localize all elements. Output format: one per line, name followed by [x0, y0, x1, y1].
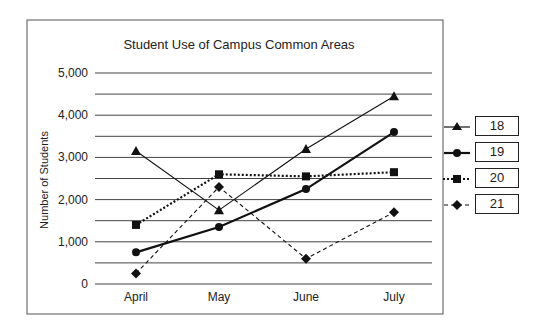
circle-marker [302, 185, 310, 193]
legend-item-18: 18 [442, 116, 542, 142]
triangle-marker-icon [442, 116, 472, 138]
y-tick-label: 5,000 [58, 66, 88, 80]
y-tick-label: 3,000 [58, 150, 88, 164]
legend-label: 18 [475, 116, 519, 136]
square-marker [390, 168, 398, 176]
y-axis-ticks: 01,0002,0003,0004,0005,000 [58, 66, 88, 291]
chart-frame [27, 20, 443, 314]
square-marker-icon [442, 168, 472, 190]
y-tick-label: 0 [81, 277, 88, 291]
x-tick-label: April [124, 290, 148, 304]
triangle-marker [301, 144, 311, 153]
square-marker [215, 170, 223, 178]
y-axis-label: Number of Students [38, 131, 50, 229]
legend-label: 20 [475, 168, 519, 188]
x-tick-label: July [383, 290, 404, 304]
series-line [136, 172, 394, 225]
triangle-marker [131, 146, 141, 155]
legend-item-19: 19 [442, 142, 542, 168]
circle-marker [390, 128, 398, 136]
legend-item-21: 21 [442, 194, 542, 220]
circle-marker [132, 248, 140, 256]
square-marker [302, 172, 310, 180]
diamond-marker [389, 207, 399, 217]
series-18 [131, 91, 399, 214]
series-line [136, 132, 394, 252]
y-tick-label: 1,000 [58, 235, 88, 249]
square-marker [132, 221, 140, 229]
y-tick-label: 2,000 [58, 193, 88, 207]
y-tick-label: 4,000 [58, 108, 88, 122]
series-21 [131, 182, 399, 279]
triangle-marker [389, 91, 399, 100]
legend: 18 19 20 21 [442, 116, 542, 220]
diamond-marker [131, 268, 141, 278]
series-lines [131, 91, 399, 278]
x-axis-ticks: AprilMayJuneJuly [124, 290, 405, 304]
diamond-marker-icon [442, 194, 472, 216]
legend-item-20: 20 [442, 168, 542, 194]
triangle-marker [214, 205, 224, 214]
legend-label: 21 [475, 194, 519, 214]
legend-label: 19 [475, 142, 519, 162]
series-19 [132, 128, 398, 256]
circle-marker [215, 223, 223, 231]
x-tick-label: May [208, 290, 231, 304]
circle-marker-icon [442, 142, 472, 164]
x-tick-label: June [293, 290, 319, 304]
series-line [136, 96, 394, 210]
chart-title: Student Use of Campus Common Areas [123, 37, 355, 52]
